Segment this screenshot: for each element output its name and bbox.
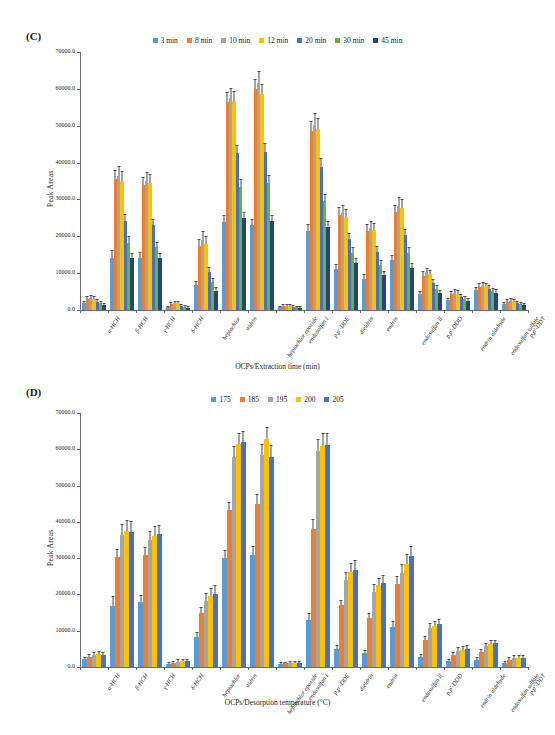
x-axis-tick-label: β-HCH bbox=[133, 672, 149, 691]
error-bar-cap bbox=[405, 554, 408, 555]
error-bar-cap bbox=[377, 578, 380, 579]
error-bar-cap bbox=[349, 563, 352, 564]
error-bar-cap bbox=[256, 494, 259, 495]
error-bar-cap bbox=[433, 621, 436, 622]
error-bar bbox=[230, 89, 231, 99]
error-bar-cap bbox=[428, 623, 431, 624]
error-bar-cap bbox=[410, 546, 413, 547]
bar bbox=[522, 305, 525, 310]
panel-d: (D) 175185195200205 0.010000.020000.0300… bbox=[0, 375, 555, 735]
x-axis-tick-label: heptachlor bbox=[221, 672, 242, 698]
bar-wrapper bbox=[382, 52, 385, 310]
error-bar-cap bbox=[456, 647, 459, 648]
bar bbox=[381, 583, 386, 667]
error-bar-cap bbox=[209, 588, 212, 589]
error-bar-cap bbox=[251, 546, 254, 547]
error-bar bbox=[265, 144, 266, 151]
bar bbox=[326, 227, 329, 310]
x-axis-tick-mark bbox=[500, 310, 501, 313]
x-axis-tick-label: dieldrin bbox=[358, 315, 375, 335]
x-axis-tick-mark bbox=[80, 310, 81, 313]
y-axis-title: Peak Areas bbox=[46, 529, 55, 566]
x-axis-tick-mark bbox=[444, 667, 445, 670]
error-bar-cap bbox=[475, 657, 478, 658]
error-bar bbox=[321, 159, 322, 167]
x-axis-tick-label: δ-HCH bbox=[189, 672, 205, 691]
bar-group bbox=[472, 413, 500, 667]
error-bar-cap bbox=[340, 600, 343, 601]
error-bar bbox=[317, 440, 318, 451]
bar-group bbox=[136, 52, 164, 310]
x-axis-tick-label: α-HCH bbox=[105, 672, 121, 691]
bar-group bbox=[192, 413, 220, 667]
bar bbox=[213, 594, 218, 667]
bar bbox=[269, 457, 274, 667]
error-bar-cap bbox=[489, 640, 492, 641]
x-axis-tick-mark bbox=[304, 310, 305, 313]
bar-group bbox=[332, 52, 360, 310]
bar-group bbox=[444, 52, 472, 310]
error-bar-cap bbox=[228, 502, 231, 503]
bar-wrapper bbox=[129, 413, 134, 667]
error-bar-cap bbox=[271, 215, 274, 216]
bar bbox=[130, 258, 133, 310]
bar-wrapper bbox=[269, 413, 274, 667]
x-axis-tick-mark bbox=[388, 667, 389, 670]
bar bbox=[242, 218, 245, 310]
x-axis-tick-mark bbox=[528, 667, 529, 670]
x-axis-tick-label: p,p'-DDE bbox=[332, 315, 351, 339]
error-bar bbox=[257, 495, 258, 503]
bar-group bbox=[108, 52, 136, 310]
bar-wrapper bbox=[409, 413, 414, 667]
bar bbox=[298, 308, 301, 310]
bar-wrapper bbox=[437, 413, 442, 667]
error-bar-cap bbox=[438, 619, 441, 620]
bar-wrapper bbox=[213, 413, 218, 667]
x-axis-tick-mark bbox=[304, 667, 305, 670]
bar-wrapper bbox=[354, 52, 357, 310]
error-bar-cap bbox=[139, 595, 142, 596]
x-axis-tick-label: p,p'-DDE bbox=[332, 672, 351, 696]
error-bar-cap bbox=[88, 654, 91, 655]
error-bar-cap bbox=[176, 659, 179, 660]
error-bar-cap bbox=[461, 646, 464, 647]
bar-wrapper bbox=[185, 413, 190, 667]
bar bbox=[297, 663, 302, 667]
x-axis-tick-mark bbox=[136, 667, 137, 670]
error-bar-cap bbox=[158, 525, 161, 526]
bar-group bbox=[80, 52, 108, 310]
error-bar bbox=[229, 503, 230, 510]
error-bar-cap bbox=[484, 643, 487, 644]
error-bar bbox=[149, 532, 150, 540]
bar-wrapper bbox=[101, 413, 106, 667]
error-bar-cap bbox=[327, 221, 330, 222]
error-bar-cap bbox=[355, 258, 358, 259]
bar-group bbox=[248, 413, 276, 667]
bar-group bbox=[136, 413, 164, 667]
error-bar-cap bbox=[480, 649, 483, 650]
bar bbox=[102, 305, 105, 310]
x-axis-tick-mark bbox=[276, 310, 277, 313]
error-bar bbox=[324, 195, 325, 202]
error-bar bbox=[154, 527, 155, 536]
bar-group bbox=[332, 413, 360, 667]
x-axis-tick-mark bbox=[472, 310, 473, 313]
bar-series-container bbox=[80, 52, 528, 310]
x-axis-tick-mark bbox=[416, 310, 417, 313]
bar-group bbox=[220, 52, 248, 310]
error-bar bbox=[146, 173, 147, 181]
error-bar-cap bbox=[195, 632, 198, 633]
bar-group bbox=[276, 52, 304, 310]
x-axis-tick-mark bbox=[388, 310, 389, 313]
bar-group bbox=[388, 413, 416, 667]
error-bar bbox=[126, 521, 127, 531]
y-axis-tick-label: 60000.0 bbox=[56, 85, 76, 91]
error-bar bbox=[401, 565, 402, 573]
error-bar-cap bbox=[111, 596, 114, 597]
error-bar-cap bbox=[382, 575, 385, 576]
error-bar bbox=[339, 208, 340, 215]
error-bar-cap bbox=[200, 607, 203, 608]
error-bar-cap bbox=[223, 550, 226, 551]
bar bbox=[101, 655, 106, 667]
error-bar-cap bbox=[307, 613, 310, 614]
